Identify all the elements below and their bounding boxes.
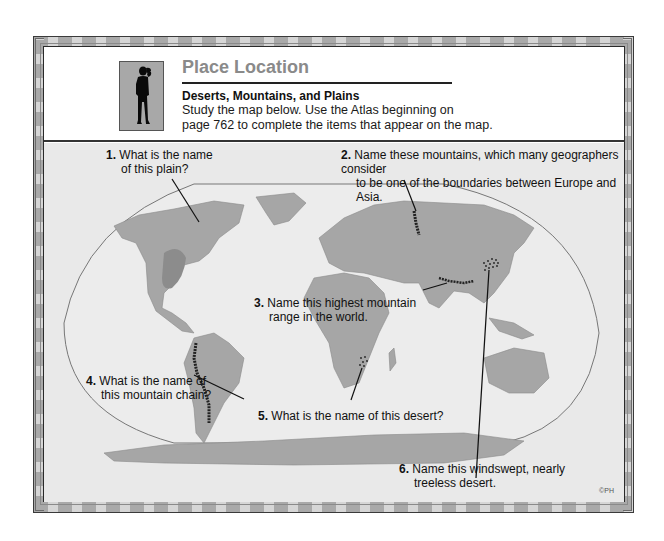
page-title: Place Location — [182, 57, 309, 78]
question-6: 6. Name this windswept, nearly treeless … — [399, 462, 565, 490]
instructions: Study the map below. Use the Atlas begin… — [182, 103, 602, 133]
worksheet-panel: Place Location Deserts, Mountains, and P… — [43, 46, 625, 502]
subtitle: Deserts, Mountains, and Plains — [182, 89, 359, 103]
world-map: 1. What is the name of this plain? 2. Na… — [44, 143, 624, 502]
copyright: ©PH — [599, 487, 614, 494]
question-5: 5. What is the name of this desert? — [258, 409, 443, 423]
title-divider — [182, 82, 452, 84]
question-4: 4. What is the name of this mountain cha… — [86, 374, 211, 402]
worksheet-header: Place Location Deserts, Mountains, and P… — [44, 47, 624, 142]
question-2: 2. Name these mountains, which many geog… — [341, 148, 624, 204]
question-3: 3. Name this highest mountain range in t… — [254, 296, 416, 324]
person-silhouette-icon — [119, 61, 164, 131]
question-1: 1. What is the name of this plain? — [106, 148, 213, 176]
